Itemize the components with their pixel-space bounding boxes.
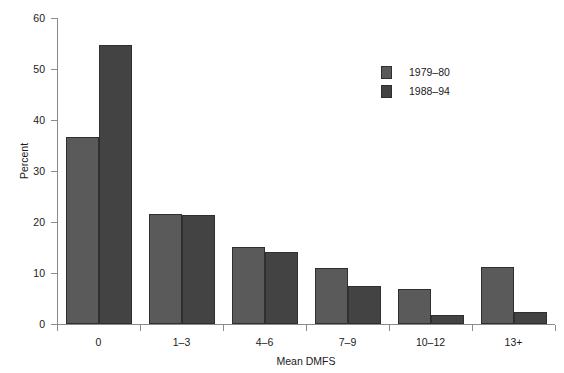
- bar-1988–94-0: [99, 45, 132, 324]
- x-tick-6: [555, 325, 556, 331]
- x-tick-label-4: 10–12: [386, 337, 476, 348]
- y-axis-title: Percent: [18, 121, 30, 201]
- x-tick-1: [140, 325, 141, 331]
- legend-item-1: 1988–94: [381, 82, 450, 101]
- bar-1988–94-13+: [514, 312, 547, 324]
- bar-1979–80-7–9: [315, 268, 348, 324]
- x-tick-4: [389, 325, 390, 331]
- chart-legend: 1979–801988–94: [381, 63, 450, 101]
- plot-area: [57, 18, 555, 324]
- x-tick-label-0: 0: [54, 337, 144, 348]
- bar-1979–80-0: [66, 137, 99, 324]
- x-tick-5: [472, 325, 473, 331]
- x-tick-label-1: 1–3: [137, 337, 227, 348]
- x-tick-0: [57, 325, 58, 331]
- y-tick-label-60: 60: [5, 13, 45, 24]
- x-tick-3: [306, 325, 307, 331]
- y-tick-label-50: 50: [5, 64, 45, 75]
- legend-label-0: 1979–80: [409, 67, 450, 78]
- y-tick-label-0: 0: [5, 319, 45, 330]
- bar-1988–94-10–12: [431, 315, 464, 324]
- bar-1979–80-4–6: [232, 247, 265, 324]
- y-tick-label-10: 10: [5, 268, 45, 279]
- x-tick-label-3: 7–9: [303, 337, 393, 348]
- x-tick-label-5: 13+: [469, 337, 559, 348]
- x-tick-2: [223, 325, 224, 331]
- legend-label-1: 1988–94: [409, 86, 450, 97]
- x-axis-title: Mean DMFS: [57, 355, 555, 367]
- bar-1988–94-7–9: [348, 286, 381, 324]
- bar-1979–80-13+: [481, 267, 514, 324]
- bar-chart: 0102030405060 01–34–67–910–1213+ Percent…: [0, 0, 564, 373]
- bar-1979–80-10–12: [398, 289, 431, 324]
- bar-1988–94-4–6: [265, 252, 298, 324]
- bar-1988–94-1–3: [182, 215, 215, 324]
- legend-swatch-0: [381, 66, 392, 79]
- y-tick-label-20: 20: [5, 217, 45, 228]
- x-tick-label-2: 4–6: [220, 337, 310, 348]
- bar-1979–80-1–3: [149, 214, 182, 324]
- legend-item-0: 1979–80: [381, 63, 450, 82]
- legend-swatch-1: [381, 85, 392, 98]
